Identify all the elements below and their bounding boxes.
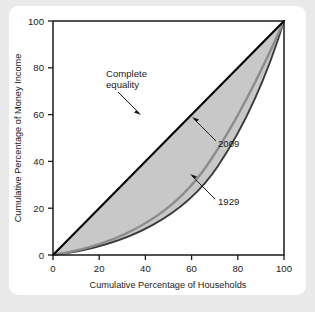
- x-tick-label-20: 20: [94, 263, 105, 274]
- x-tick-label-40: 40: [140, 263, 151, 274]
- x-tick-label-0: 0: [50, 263, 55, 274]
- annotation-complete-equality-line2: equality: [106, 79, 139, 90]
- y-tick-label-20: 20: [33, 203, 44, 214]
- annotation-label-2009: 2009: [218, 138, 239, 149]
- figure-root: 0 20 40 60 80 100 0 20 40 60 80 100 Cumu…: [0, 0, 315, 312]
- x-tick-label-60: 60: [186, 263, 197, 274]
- x-axis-title: Cumulative Percentage of Households: [90, 280, 247, 290]
- y-tick-label-40: 40: [33, 156, 44, 167]
- annotation-label-1929: 1929: [218, 196, 239, 207]
- complete-equality-line: [53, 21, 284, 255]
- y-axis-title: Cumulative Percentage of Money Income: [13, 54, 23, 223]
- annotation-arrow-complete-equality: [118, 92, 141, 115]
- y-tick-label-60: 60: [33, 109, 44, 120]
- y-tick-label-100: 100: [28, 16, 44, 27]
- annotation-complete-equality-line1: Complete: [106, 68, 147, 79]
- x-tick-label-80: 80: [232, 263, 243, 274]
- y-tick-label-0: 0: [39, 250, 44, 261]
- lorenz-curve-chart: 0 20 40 60 80 100 0 20 40 60 80 100 Cumu…: [0, 0, 315, 312]
- y-tick-label-80: 80: [33, 62, 44, 73]
- x-tick-label-100: 100: [276, 263, 292, 274]
